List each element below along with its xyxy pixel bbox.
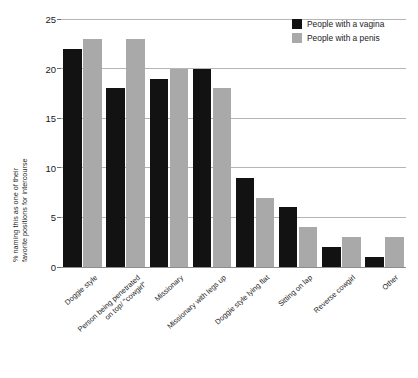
bar — [365, 257, 384, 267]
y-tick-label-25: 25 — [45, 14, 56, 25]
x-axis-label-line: Missionary — [153, 273, 185, 303]
plot-area: 0510152025 — [61, 19, 406, 267]
x-axis-label-line: Sitting on lap — [276, 273, 314, 308]
legend-swatch-icon-penis — [292, 33, 302, 43]
bar-group — [61, 19, 406, 267]
x-axis-label: Reverse cowgirl — [312, 273, 357, 315]
bar — [385, 237, 404, 267]
x-axis-labels: Doggie stylePerson being penetratedon to… — [61, 267, 406, 378]
x-axis-label: Missionary — [153, 273, 185, 303]
x-axis-label-line: Other — [381, 273, 401, 292]
bars-layer — [61, 19, 406, 267]
y-tick-label-5: 5 — [51, 212, 56, 223]
legend: People with a vagina People with a penis — [292, 19, 416, 47]
y-tick-label-15: 15 — [45, 113, 56, 124]
x-axis-label-line: on top/ "cowgirl" — [82, 280, 148, 341]
y-tick-label-0: 0 — [51, 262, 56, 273]
x-axis-label: Doggie style — [62, 273, 98, 307]
x-axis-label-line: Reverse cowgirl — [312, 273, 357, 315]
legend-label-vagina: People with a vagina — [307, 19, 384, 29]
y-axis-title-line-1: % naming this as one of their — [11, 168, 20, 262]
legend-item-penis: People with a penis — [292, 33, 416, 43]
y-axis-title: % naming this as one of their favorite p… — [2, 0, 26, 270]
x-axis-label-line: Doggie style — [62, 273, 98, 307]
x-axis-label: Other — [381, 273, 401, 292]
y-axis-title-line-2: favorite positions for intercourse — [20, 158, 29, 262]
legend-label-penis: People with a penis — [307, 33, 380, 43]
legend-item-vagina: People with a vagina — [292, 19, 416, 29]
y-tick-label-10: 10 — [45, 162, 56, 173]
bar-chart: % naming this as one of their favorite p… — [0, 0, 418, 378]
x-axis-label: Sitting on lap — [276, 273, 314, 308]
legend-swatch-icon-vagina — [292, 19, 302, 29]
y-tick-label-20: 20 — [45, 63, 56, 74]
